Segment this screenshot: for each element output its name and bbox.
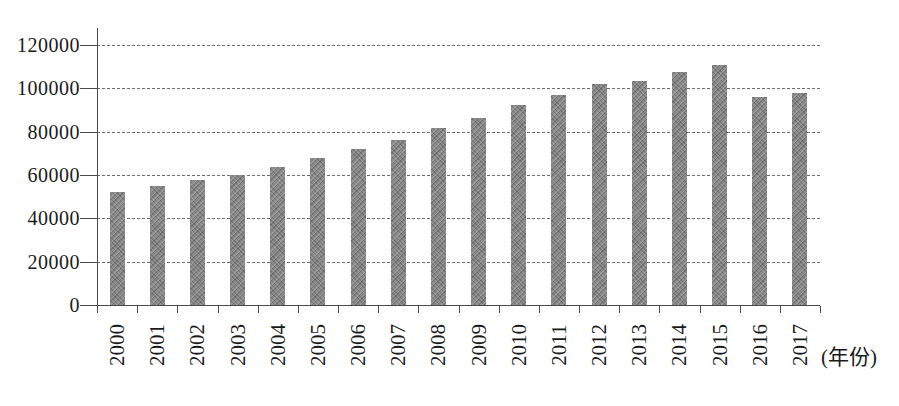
bar xyxy=(672,72,687,305)
x-tick-label: 2003 xyxy=(227,321,249,369)
bar xyxy=(431,128,446,305)
y-tick-mark xyxy=(80,218,97,219)
y-tick-mark xyxy=(80,132,97,133)
bar xyxy=(391,140,406,305)
x-tick-mark xyxy=(378,306,379,313)
x-tick-label: 2015 xyxy=(709,321,731,369)
bar xyxy=(752,97,767,305)
bar xyxy=(190,180,205,305)
bar xyxy=(792,93,807,305)
x-tick-label: 2012 xyxy=(588,321,610,369)
x-tick-mark xyxy=(459,306,460,313)
x-tick-mark xyxy=(740,306,741,313)
bar xyxy=(351,149,366,305)
x-tick-label: 2002 xyxy=(186,321,208,369)
bar xyxy=(110,192,125,305)
bar xyxy=(712,65,727,306)
bar xyxy=(551,95,566,305)
y-tick-label: 20000 xyxy=(0,251,80,273)
y-tick-label: 100000 xyxy=(0,77,80,99)
y-tick-label: 0 xyxy=(0,294,80,316)
x-tick-mark xyxy=(539,306,540,313)
x-tick-label: 2000 xyxy=(106,321,128,369)
bar xyxy=(310,158,325,305)
bar xyxy=(511,105,526,305)
bar xyxy=(592,84,607,305)
x-tick-mark xyxy=(619,306,620,313)
x-tick-label: 2016 xyxy=(749,321,771,369)
x-tick-mark xyxy=(820,306,821,313)
x-tick-label: 2010 xyxy=(508,321,530,369)
x-tick-mark xyxy=(700,306,701,313)
x-tick-mark xyxy=(418,306,419,313)
gridline xyxy=(97,45,820,46)
x-tick-label: 2006 xyxy=(347,321,369,369)
plot-area: 0200004000060000800001000001200002000200… xyxy=(0,0,899,406)
x-tick-label: 2004 xyxy=(267,321,289,369)
x-tick-mark xyxy=(177,306,178,313)
x-tick-mark xyxy=(258,306,259,313)
x-tick-label: 2014 xyxy=(668,321,690,369)
y-tick-label: 80000 xyxy=(0,121,80,143)
y-tick-mark xyxy=(80,305,97,306)
bar-chart: 0200004000060000800001000001200002000200… xyxy=(0,0,899,406)
x-tick-label: 2017 xyxy=(789,321,811,369)
x-tick-mark xyxy=(218,306,219,313)
y-tick-mark xyxy=(80,262,97,263)
x-tick-mark xyxy=(338,306,339,313)
x-tick-mark xyxy=(659,306,660,313)
bar xyxy=(230,175,245,305)
x-tick-mark xyxy=(780,306,781,313)
x-axis-unit-label: (年份) xyxy=(821,340,877,370)
bar xyxy=(270,167,285,305)
x-tick-label: 2009 xyxy=(468,321,490,369)
y-tick-label: 60000 xyxy=(0,164,80,186)
x-tick-label: 2001 xyxy=(146,321,168,369)
y-tick-mark xyxy=(80,175,97,176)
bar xyxy=(632,81,647,305)
bar xyxy=(150,186,165,305)
y-tick-label: 120000 xyxy=(0,34,80,56)
y-tick-mark xyxy=(80,45,97,46)
x-tick-mark xyxy=(499,306,500,313)
x-tick-label: 2007 xyxy=(387,321,409,369)
x-tick-mark xyxy=(97,306,98,313)
x-tick-label: 2008 xyxy=(427,321,449,369)
y-tick-label: 40000 xyxy=(0,207,80,229)
x-tick-mark xyxy=(137,306,138,313)
x-tick-label: 2013 xyxy=(628,321,650,369)
x-tick-mark xyxy=(298,306,299,313)
y-axis-line xyxy=(97,28,98,310)
x-tick-label: 2011 xyxy=(548,321,570,369)
bar xyxy=(471,118,486,305)
x-tick-mark xyxy=(579,306,580,313)
x-tick-label: 2005 xyxy=(307,321,329,369)
y-tick-mark xyxy=(80,88,97,89)
